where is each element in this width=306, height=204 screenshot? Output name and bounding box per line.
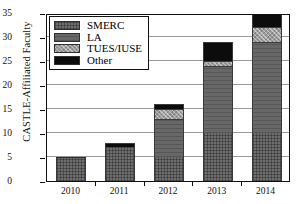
bar-segment-2013-la [203,66,233,133]
legend-swatch-smerc [54,21,80,30]
y-tick-mark [40,158,45,159]
y-tick-mark [40,182,45,183]
stacked-bar-chart: CASTLE-Affiliated Faculty 05101520253035… [0,0,306,204]
bar-segment-2011-other [105,143,135,148]
y-tick-label: 20 [0,81,12,91]
y-tick-label: 35 [0,9,12,19]
bar-segment-2014-other [252,15,282,27]
legend-label: TUES/IUSE [87,43,142,54]
bar-segment-2012-la [154,119,184,157]
bar-segment-2013-other [203,42,233,61]
x-tick-mark [144,182,145,186]
x-tick-mark [241,182,242,186]
bar-segment-2012-smerc [154,157,184,181]
bar-segment-2013-smerc [203,133,233,181]
x-tick-label-2014: 2014 [236,186,296,196]
y-tick-label: 0 [0,177,12,187]
bar-segment-2014-smerc [252,133,282,181]
bar-segment-2010-smerc [56,157,86,181]
y-tick-label: 30 [0,33,12,43]
bar-segment-2011-smerc [105,147,135,181]
legend: SMERCLATUES/IUSEOther [49,16,149,70]
y-tick-label: 25 [0,57,12,67]
bar-segment-2013-tues-iuse [203,61,233,66]
legend-label: SMERC [87,20,124,31]
bar-segment-2014-la [252,42,282,133]
y-tick-label: 10 [0,129,12,139]
y-tick-mark [40,110,45,111]
legend-item-tues-iuse: TUES/IUSE [54,43,142,55]
y-tick-mark [40,62,45,63]
bar-segment-2014-tues-iuse [252,27,282,41]
legend-label: Other [87,55,112,66]
legend-item-other: Other [54,55,142,67]
legend-swatch-other [54,56,80,65]
bar-segment-2012-other [154,104,184,109]
y-tick-label: 5 [0,153,12,163]
legend-label: LA [87,32,102,43]
legend-item-smerc: SMERC [54,20,142,32]
x-tick-mark [192,182,193,186]
x-tick-mark [95,182,96,186]
y-tick-mark [40,134,45,135]
y-tick-label: 15 [0,105,12,115]
legend-swatch-tues [54,44,80,53]
y-axis-title: CASTLE-Affiliated Faculty [21,2,32,162]
bar-segment-2012-tues-iuse [154,109,184,119]
legend-swatch-la [54,33,80,42]
y-tick-mark [40,14,45,15]
y-tick-mark [40,38,45,39]
y-tick-mark [40,86,45,87]
